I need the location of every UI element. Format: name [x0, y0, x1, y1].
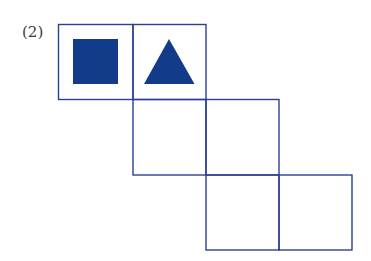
- net-cell-r3c4: [279, 175, 352, 250]
- net-cell-r3c3: [206, 175, 279, 250]
- filled-square-icon: [73, 39, 118, 84]
- net-cell-r2c3: [206, 100, 279, 176]
- net-cell-r2c2: [133, 100, 206, 176]
- cube-net-diagram: [0, 0, 371, 261]
- filled-triangle-icon: [144, 39, 195, 84]
